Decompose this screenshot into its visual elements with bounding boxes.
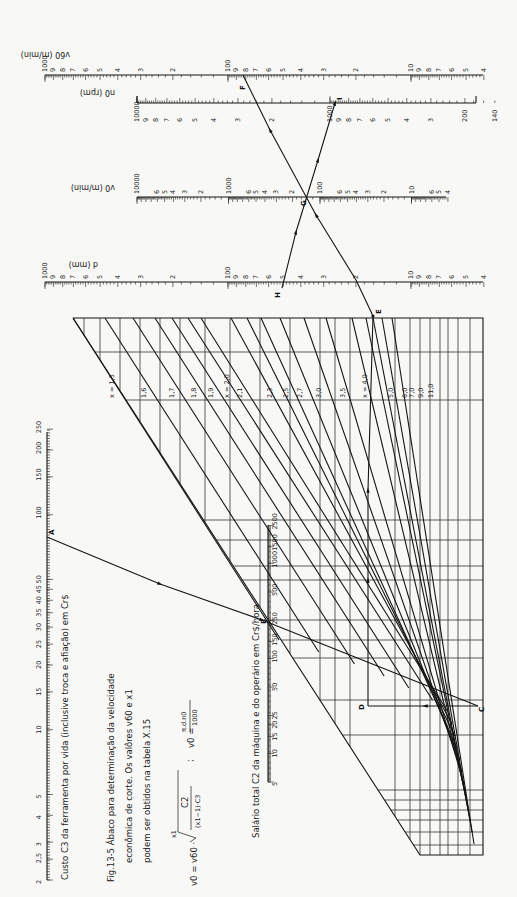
v60-tick-label: 2: [352, 68, 360, 72]
n0-tick-label: 8: [152, 118, 160, 122]
n0-tick-label: 4: [210, 118, 218, 122]
nomogram: v60 (m/min) n0 (rpm) v0 (m/min) d (mm) C…: [0, 0, 517, 897]
n0-scale: [137, 96, 495, 103]
C2-tick-label: 500: [271, 584, 279, 596]
C3-tick-label: 30: [35, 623, 43, 631]
C2-tick-label: 25: [271, 711, 279, 719]
n0-tick-label: 5: [384, 118, 392, 122]
x-curve-label: x = 1,5: [108, 374, 116, 398]
C3-tick-label: 2: [35, 880, 43, 884]
d-tick-label: 6: [265, 275, 273, 279]
n0-tick-label: 4: [403, 118, 411, 122]
C3-tick-label: 50: [35, 575, 43, 583]
x-curve-label: 11,0: [427, 384, 435, 398]
n0-tick-label: 1000: [326, 105, 334, 122]
v60-tick-label: 9: [415, 68, 423, 72]
C2-tick-label: 50: [271, 683, 279, 691]
v0-tick-label: 4: [261, 190, 269, 194]
v60-tick-label: 5: [279, 68, 287, 72]
v0-tick-label: 3: [272, 190, 280, 194]
v0-tick-label: 5: [161, 190, 169, 194]
C2-tick-label: 250: [271, 612, 279, 624]
n0-tick-label: 3: [427, 118, 435, 122]
d-tick-label: 5: [279, 275, 287, 279]
C3-tick-label: 10: [35, 725, 43, 733]
v0-scale: [137, 197, 448, 204]
v0-tick-label: 100: [316, 182, 324, 194]
x-curve-label: 1,9: [207, 388, 215, 398]
formula-right-numerator: π.d.n0: [180, 712, 188, 732]
point-g-label: G: [300, 200, 308, 206]
n0-tick-label: 140: [491, 110, 499, 122]
v60-tick-label: 10: [407, 64, 415, 72]
v0-tick-label: 2: [288, 190, 296, 194]
d-tick-label: 8: [425, 275, 433, 279]
n0-tick-label: 3: [234, 118, 242, 122]
C3-tick-label: 35: [35, 608, 43, 616]
point-c-label: C: [478, 707, 486, 712]
scanned-page: v60 (m/min) n0 (rpm) v0 (m/min) d (mm) C…: [0, 0, 517, 897]
formula-denominator: (x1−1)·C3: [194, 795, 202, 828]
d-tick-label: 6: [448, 275, 456, 279]
n0-tick-label: 2: [268, 118, 276, 122]
v60-tick-label: 7: [69, 68, 77, 72]
C2-tick-label: 150: [271, 633, 279, 645]
v60-tick-label: 7: [252, 68, 260, 72]
d-tick-label: 8: [242, 275, 250, 279]
d-tick-label: 2: [169, 275, 177, 279]
x-curve-label: 2,1: [236, 388, 244, 398]
x-curve-label: x = 4,0: [361, 374, 369, 398]
C2-tick-label: 15: [271, 732, 279, 740]
x-curve-label: 3,0: [315, 388, 323, 398]
C2-tick-label: 20: [271, 721, 279, 729]
c2-scale-title: Salário total C2 da máquina e do operári…: [251, 604, 261, 838]
n0-tick-label: 5: [191, 118, 199, 122]
d-tick-label: 4: [114, 275, 122, 279]
d-tick-label: 9: [49, 275, 57, 279]
d-tick-label: 9: [232, 275, 240, 279]
n0-tick-label: 6: [176, 118, 184, 122]
v60-tick-label: 6: [448, 68, 456, 72]
d-tick-label: 4: [480, 275, 488, 279]
v0-scale-title: v0 (m/min): [71, 183, 115, 192]
C3-tick-label: 2,5: [35, 853, 43, 863]
v60-tick-label: 8: [242, 68, 250, 72]
v60-tick-label: 5: [96, 68, 104, 72]
point-e-label: E: [375, 309, 383, 314]
v0-tick-label: 2: [380, 190, 388, 194]
d-tick-label: 4: [297, 275, 305, 279]
n0-tick-label: 9: [335, 118, 343, 122]
C2-tick-label: 1000: [271, 551, 279, 568]
C3-tick-label: 150: [35, 468, 43, 480]
C3-tick-label: 45: [35, 585, 43, 593]
v0-tick-label: 4: [352, 190, 360, 194]
v60-tick-label: 7: [435, 68, 443, 72]
formula-lhs: v0 = v60 ·: [189, 842, 199, 886]
v60-tick-label: 3: [320, 68, 328, 72]
d-tick-label: 6: [82, 275, 90, 279]
C3-tick-label: 25: [35, 640, 43, 648]
C3-tick-label: 3: [35, 842, 43, 846]
v60-tick-label: 4: [114, 68, 122, 72]
v0-tick-label: 1000: [225, 177, 233, 194]
formula-separator: ;: [185, 759, 195, 762]
v60-tick-label: 1000: [41, 55, 49, 72]
v60-tick-label: 9: [232, 68, 240, 72]
x-curve-label: 1,8: [190, 388, 198, 398]
x-curve-label: 2,5: [282, 388, 290, 398]
point-h-label: H: [274, 292, 282, 298]
d-tick-label: 5: [462, 275, 470, 279]
v60-tick-label: 2: [169, 68, 177, 72]
d-tick-label: 7: [435, 275, 443, 279]
v60-tick-label: 9: [49, 68, 57, 72]
x-curve-label: 2,7: [296, 388, 304, 398]
C3-tick-label: 40: [35, 596, 43, 604]
C2-tick-label: 5: [271, 782, 279, 786]
v60-tick-label: 8: [425, 68, 433, 72]
n0-tick-label: 200: [461, 110, 469, 122]
n0-scale-title: n0 (rpm): [80, 88, 115, 97]
v0-tick-label: 10: [408, 186, 416, 194]
d-scale: [45, 282, 484, 289]
n0-tick-label: 7: [163, 118, 171, 122]
v0-tick-label: 2: [197, 190, 205, 194]
